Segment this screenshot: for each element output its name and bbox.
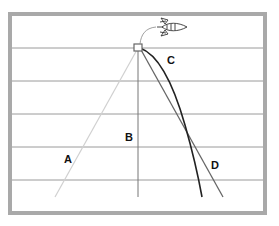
label-a: A (64, 153, 72, 165)
label-d: D (211, 159, 219, 171)
label-c: C (167, 54, 175, 66)
trajectory-diagram: A B C D (0, 0, 279, 226)
origin-box (134, 44, 142, 51)
label-b: B (125, 131, 133, 143)
